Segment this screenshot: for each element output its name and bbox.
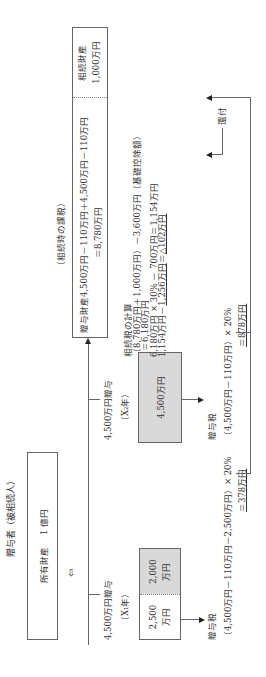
- donor-assets-value: 1 億円: [37, 509, 49, 535]
- gift2-year: （X₂年）: [121, 389, 130, 425]
- gift2-tax-arrow-icon: [198, 397, 204, 403]
- down-arrow-icon: ⇩: [67, 568, 75, 578]
- refund-line: [222, 128, 223, 155]
- inheritance-box: 贈与財産4,500万円－110万円＋4,500万円－110万円 ＝8,780万円…: [72, 27, 108, 338]
- gift1-tax-title: 贈与税: [208, 613, 217, 640]
- refund-label: 還付: [218, 107, 227, 125]
- gift1-taxable-amount: 2,000: [147, 559, 160, 583]
- arrow-to-inheritance-box-icon: [85, 338, 91, 344]
- donor-assets-label: 所有財産: [37, 547, 49, 583]
- credit-line: [212, 97, 250, 98]
- gift2-branch-line: [88, 399, 100, 400]
- donor-assets-box: 所有財産 1 億円: [27, 452, 58, 640]
- refund-arrow-icon: [206, 152, 212, 158]
- gift1-exempt-amount: 2,500: [147, 605, 160, 629]
- gift-assets-cell: 贈与財産4,500万円－110万円＋4,500万円－110万円 ＝8,780万円: [78, 101, 105, 333]
- gift1-tax-line: [181, 619, 201, 620]
- gift2-box: 4,500万円: [138, 352, 182, 443]
- gift2-label: 4,500万円贈与: [104, 380, 113, 440]
- gift1-tax-result: ＝378万円: [238, 469, 247, 512]
- refund-amount: △102万円: [157, 214, 167, 255]
- main-flow-line: [88, 343, 89, 645]
- gift1-split-box: 2,500 万円 2,000 万円: [139, 548, 181, 640]
- gift2-amount: 4,500万円: [154, 376, 166, 418]
- gift1-taxable-portion: 2,000 万円: [140, 549, 180, 594]
- estate-label: 相続財産: [76, 45, 90, 81]
- gift1-exempt-portion: 2,500 万円: [140, 595, 180, 639]
- gift2-tax-result: ＝878万円: [238, 304, 247, 347]
- gift1-exempt-unit: 万円: [160, 608, 173, 626]
- gift-tax-credit: 1,256万円: [157, 263, 167, 305]
- credit-arrow-icon: [206, 95, 212, 101]
- donor-title: 贈与者（被相続人）: [7, 476, 16, 557]
- gift1-label: 4,500万円贈与: [104, 580, 113, 640]
- gift-tax-settlement-diagram: 贈与者（被相続人） 所有財産 1 億円 ⇩ 4,500万円贈与 （X₁年） 2,…: [0, 0, 266, 677]
- gift1-taxable-unit: 万円: [160, 563, 173, 581]
- gift1-year: （X₁年）: [121, 589, 130, 625]
- calc-line4: 1,154万円－1,256万円＝△102万円: [158, 131, 167, 357]
- gift1-branch-line: [88, 594, 100, 595]
- gift-assets-total: ＝8,780万円: [92, 101, 106, 333]
- gift1-tax-formula: （4,500万円－110万円－2,500万円）× 20%: [224, 456, 233, 640]
- estate-value: 1,000万円: [90, 41, 104, 83]
- gift-tax-sum-bracket: [250, 97, 251, 474]
- estate-cell: 相続財産 1,000万円: [73, 28, 107, 97]
- gift2-tax-formula: （4,500万円－110万円）× 20%: [224, 308, 233, 440]
- gift1-tax-arrow-icon: [199, 617, 205, 623]
- inheritance-heading: （相続時の課税）: [57, 198, 66, 270]
- inheritance-tax-calculation: 相続税の計算 （8,780万円＋1,000万円）－3,600万円（基礎控除額） …: [124, 131, 167, 357]
- gift-assets-formula: 贈与財産4,500万円－110万円＋4,500万円－110万円: [78, 101, 92, 333]
- gift2-tax-title: 贈与税: [208, 413, 217, 440]
